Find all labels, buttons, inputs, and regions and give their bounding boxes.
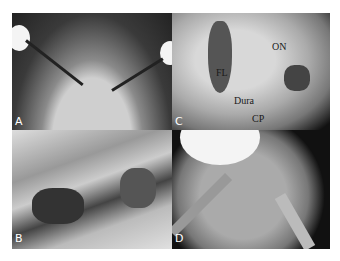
panel-label-a: A xyxy=(15,115,23,128)
panel-a: A xyxy=(12,13,172,130)
annotation-fl: FL xyxy=(216,67,228,78)
panel-label-b: B xyxy=(15,232,23,245)
panel-c: FL ON Dura CP C xyxy=(172,13,330,130)
instrument-left xyxy=(172,173,232,237)
frontal-lobe-region xyxy=(208,21,232,93)
instrument-right xyxy=(275,193,315,249)
dark-region xyxy=(284,65,310,91)
panel-label-c: C xyxy=(175,115,183,128)
annotation-on: ON xyxy=(272,41,286,52)
panel-b: B xyxy=(12,130,172,249)
retractor-right xyxy=(111,57,163,91)
cavity-left xyxy=(32,188,84,224)
light-source-right xyxy=(160,41,172,65)
panel-label-d: D xyxy=(175,232,183,245)
light-source-left xyxy=(12,25,30,51)
cavity-right xyxy=(120,168,156,208)
panel-d: D xyxy=(172,130,330,249)
retractor-left xyxy=(25,39,84,86)
annotation-cp: CP xyxy=(252,113,264,124)
annotation-dura: Dura xyxy=(234,95,254,106)
light-reflection xyxy=(180,130,260,165)
